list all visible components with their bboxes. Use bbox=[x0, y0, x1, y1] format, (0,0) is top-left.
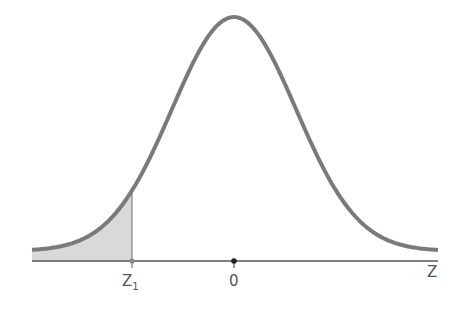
z1-label: Z1 bbox=[122, 272, 139, 292]
bell-curve bbox=[32, 17, 438, 250]
mean-point bbox=[231, 258, 237, 264]
axis-label-z: Z bbox=[427, 263, 437, 281]
z1-point bbox=[129, 258, 134, 263]
zero-label: 0 bbox=[229, 272, 239, 290]
